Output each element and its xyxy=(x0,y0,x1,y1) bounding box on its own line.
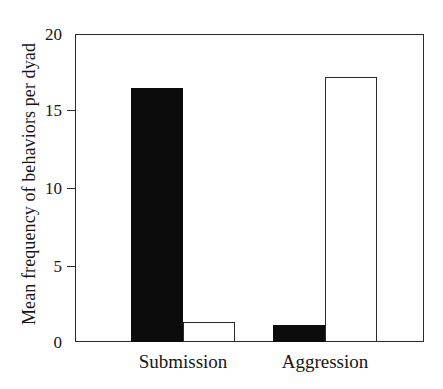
y-tick-label-20: 20 xyxy=(45,26,62,43)
x-category-label-submission: Submission xyxy=(113,351,253,373)
y-axis-title: Mean frequency of behaviors per dyad xyxy=(12,14,46,354)
x-category-label-aggression: Aggression xyxy=(255,351,395,373)
bar-aggression-open xyxy=(325,77,377,342)
bar-submission-open xyxy=(183,322,235,342)
bar-chart-figure: Mean frequency of behaviors per dyad 20 … xyxy=(0,0,443,389)
bar-submission-filled xyxy=(131,88,183,342)
bar-aggression-filled xyxy=(273,325,325,342)
y-tick-label-0: 0 xyxy=(54,334,63,351)
y-tick-label-5: 5 xyxy=(54,258,63,275)
y-tick-label-15: 15 xyxy=(45,102,62,119)
y-tick-label-10: 10 xyxy=(45,180,62,197)
